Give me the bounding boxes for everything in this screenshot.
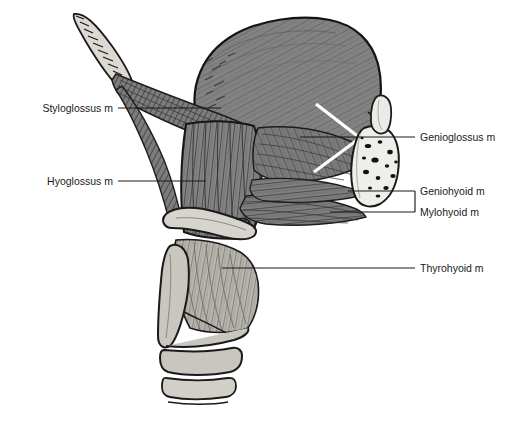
label-mylohyoid: Mylohyoid m: [420, 206, 479, 218]
anatomy-figure: Styloglossus m Hyoglossus m Genioglossus…: [0, 0, 527, 423]
tracheal-ring: [162, 378, 236, 404]
label-geniohyoid: Geniohyoid m: [420, 185, 485, 197]
anatomy-illustration: Styloglossus m Hyoglossus m Genioglossus…: [0, 0, 527, 423]
label-hyoglossus: Hyoglossus m: [47, 175, 113, 187]
label-styloglossus: Styloglossus m: [42, 102, 113, 114]
incisor-tooth: [371, 96, 391, 134]
geniohyoid-m: [250, 178, 360, 202]
label-genioglossus: Genioglossus m: [420, 131, 496, 143]
mandible: [351, 126, 399, 206]
cricoid-cartilage: [160, 348, 242, 375]
label-thyrohyoid: Thyrohyoid m: [420, 262, 484, 274]
